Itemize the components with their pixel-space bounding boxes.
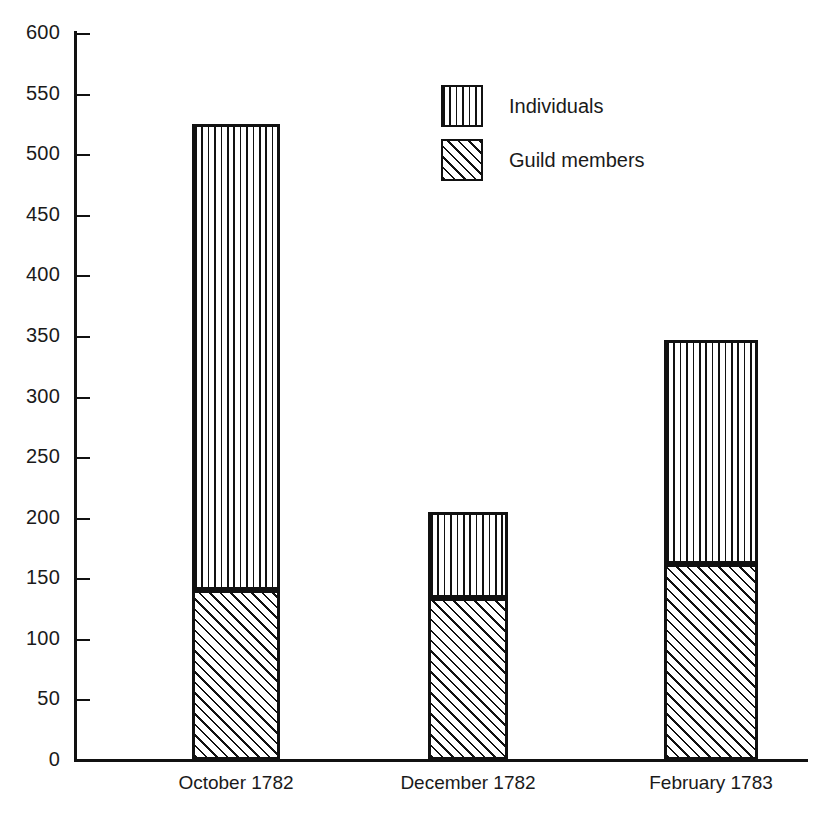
y-axis-tick-label: 150 (4, 567, 60, 587)
y-axis-tick-label: 550 (4, 83, 60, 103)
y-axis-tick-label: 600 (4, 22, 60, 42)
bar-segment-individuals (664, 340, 758, 564)
bar-segment-guild-members (192, 590, 280, 760)
y-axis-tick-mark (77, 457, 90, 459)
y-axis-tick-mark (77, 760, 90, 762)
y-axis-tick-label: 100 (4, 628, 60, 648)
bar-chart: 050100150200250300350400450500550600 Oct… (0, 0, 820, 822)
y-axis-tick-mark (77, 33, 90, 35)
y-axis-tick-mark (77, 94, 90, 96)
legend-label: Individuals (509, 95, 604, 117)
y-axis-tick-mark (77, 215, 90, 217)
legend-swatch (441, 85, 483, 127)
y-axis-tick-label: 250 (4, 446, 60, 466)
y-axis-tick-mark (77, 699, 90, 701)
y-axis-tick-label: 450 (4, 204, 60, 224)
y-axis-tick-label: 300 (4, 386, 60, 406)
bar-segment-guild-members (664, 564, 758, 760)
y-axis-tick-mark (77, 336, 90, 338)
y-axis-tick-mark (77, 154, 90, 156)
legend-label: Guild members (509, 149, 645, 171)
stacked-bar (664, 340, 758, 760)
y-axis-tick-label: 200 (4, 507, 60, 527)
x-axis-category-label: October 1782 (126, 772, 346, 794)
stacked-bar (192, 124, 280, 760)
legend-item: Individuals (441, 85, 604, 127)
y-axis-tick-label: 350 (4, 325, 60, 345)
y-axis-tick-mark (77, 397, 90, 399)
stacked-bar (428, 512, 508, 760)
bar-segment-individuals (428, 512, 508, 598)
x-axis-category-label: December 1782 (358, 772, 578, 794)
y-axis-tick-mark (77, 518, 90, 520)
x-axis-category-label: February 1783 (601, 772, 820, 794)
legend-item: Guild members (441, 139, 645, 181)
bar-segment-individuals (192, 124, 280, 590)
bar-segment-guild-members (428, 598, 508, 760)
y-axis-tick-label: 0 (4, 749, 60, 769)
legend-swatch (441, 139, 483, 181)
y-axis-tick-mark (77, 578, 90, 580)
y-axis-tick-label: 400 (4, 264, 60, 284)
y-axis-tick-label: 500 (4, 143, 60, 163)
y-axis-tick-mark (77, 275, 90, 277)
y-axis-tick-mark (77, 639, 90, 641)
y-axis-tick-label: 50 (4, 688, 60, 708)
